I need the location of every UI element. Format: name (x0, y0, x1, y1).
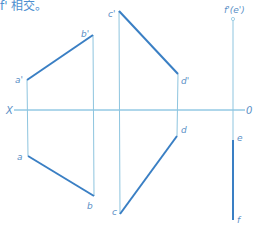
line-a-prime-b-prime (27, 35, 93, 80)
projection-diagram: X 0 a' b' c' d' f'(e') a b c d e f (0, 0, 266, 227)
label-e: e (237, 133, 243, 143)
line-c-prime-d-prime (119, 11, 178, 74)
label-b: b (87, 201, 93, 211)
label-a-prime: a' (15, 75, 23, 85)
label-a: a (17, 152, 23, 162)
label-f: f (237, 215, 242, 225)
line-c-d (120, 136, 177, 214)
label-d: d (181, 125, 187, 135)
projector-b (93, 35, 94, 196)
label-c-prime: c' (108, 9, 115, 19)
label-f-prime-e-prime: f'(e') (224, 5, 245, 15)
projector-d (177, 74, 178, 136)
projector-a (27, 80, 28, 156)
label-b-prime: b' (81, 29, 89, 39)
point-f-prime-marker (231, 17, 234, 20)
projector-c (119, 11, 120, 214)
origin-label: 0 (246, 105, 252, 116)
label-d-prime: d' (181, 76, 189, 86)
x-axis-label: X (5, 105, 14, 116)
line-a-b (28, 156, 94, 196)
label-c: c (112, 207, 117, 217)
